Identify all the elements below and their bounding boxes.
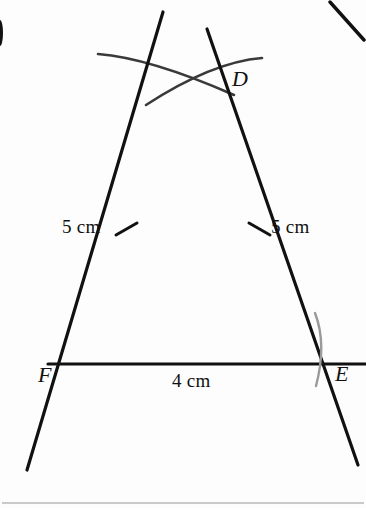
stray-line-fragment-top-right [330, 2, 364, 40]
vertex-label-e: E [335, 363, 348, 385]
length-label-base: 4 cm [172, 371, 211, 390]
congruence-tick-right-side [249, 223, 270, 235]
congruence-tick-left-side [116, 223, 137, 235]
figure-page: D E F 5 cm 5 cm 4 cm [0, 0, 366, 508]
vertex-label-f: F [38, 364, 51, 386]
construction-arc-upper-left [98, 54, 234, 95]
construction-diagram [0, 0, 366, 508]
length-label-left-side: 5 cm [62, 217, 101, 236]
length-label-right-side: 5 cm [271, 217, 310, 236]
triangle-side-DF-extended [27, 12, 163, 470]
triangle-side-DE-extended [207, 29, 358, 465]
vertex-label-d: D [232, 68, 248, 90]
